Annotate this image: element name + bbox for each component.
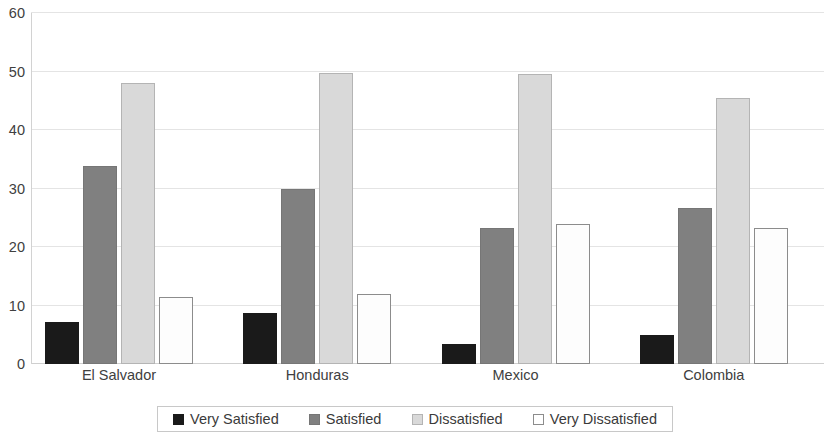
bar <box>45 322 79 364</box>
y-tick-label-60: 60 <box>0 6 25 21</box>
y-tick-label-0: 0 <box>0 357 25 372</box>
bar <box>754 228 788 364</box>
legend-swatch-icon <box>309 414 320 425</box>
y-tick-label-50: 50 <box>0 64 25 79</box>
bar-group <box>229 13 427 364</box>
x-tick-label: Mexico <box>493 368 539 383</box>
bar <box>442 344 476 364</box>
legend-label: Satisfied <box>326 412 382 427</box>
x-tick-label: Honduras <box>286 368 349 383</box>
bar <box>159 297 193 364</box>
y-tick-label-40: 40 <box>0 123 25 138</box>
bar <box>678 208 712 364</box>
bar <box>281 189 315 365</box>
bar-group <box>428 13 626 364</box>
x-axis-category-labels: El SalvadorHondurasMexicoColombia <box>31 366 824 392</box>
bar-group <box>31 13 229 364</box>
bar <box>121 83 155 364</box>
bar <box>83 166 117 364</box>
y-tick-label-10: 10 <box>0 298 25 313</box>
bars-layer <box>31 13 824 364</box>
bar <box>640 335 674 364</box>
bar <box>480 228 514 364</box>
legend-label: Dissatisfied <box>429 412 503 427</box>
legend-item[interactable]: Dissatisfied <box>412 412 503 427</box>
bar-chart: 0102030405060 El SalvadorHondurasMexicoC… <box>0 0 828 438</box>
legend-label: Very Satisfied <box>190 412 279 427</box>
y-axis-tick-labels: 0102030405060 <box>0 13 25 364</box>
legend-item[interactable]: Very Satisfied <box>173 412 279 427</box>
legend-label: Very Dissatisfied <box>550 412 657 427</box>
legend-swatch-icon <box>412 414 423 425</box>
chart-legend: Very SatisfiedSatisfiedDissatisfiedVery … <box>157 406 673 432</box>
legend-item[interactable]: Very Dissatisfied <box>533 412 657 427</box>
bar <box>556 224 590 364</box>
legend-item[interactable]: Satisfied <box>309 412 382 427</box>
bar <box>243 313 277 364</box>
bar-group <box>626 13 824 364</box>
bar <box>319 73 353 364</box>
bar <box>518 74 552 364</box>
x-tick-label: Colombia <box>683 368 744 383</box>
legend-swatch-icon <box>533 414 544 425</box>
y-tick-label-20: 20 <box>0 240 25 255</box>
bar <box>357 294 391 364</box>
x-tick-label: El Salvador <box>82 368 156 383</box>
bar <box>716 98 750 364</box>
legend-swatch-icon <box>173 414 184 425</box>
y-tick-label-30: 30 <box>0 181 25 196</box>
